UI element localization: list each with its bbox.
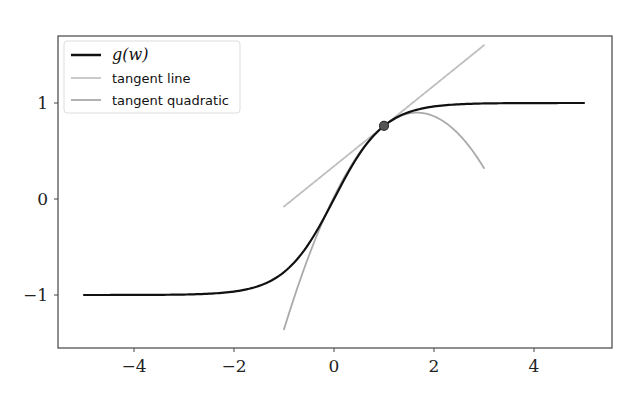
y-tick-label: 0	[37, 189, 48, 209]
x-tick-label: 4	[529, 356, 540, 376]
x-tick-label: 2	[429, 356, 440, 376]
y-axis-ticks: −101	[23, 93, 58, 305]
x-tick-label: 0	[329, 356, 340, 376]
y-tick-label: 1	[37, 93, 48, 113]
x-axis-ticks: −4−2024	[121, 348, 539, 376]
x-tick-label: −4	[121, 356, 146, 376]
chart: −4−2024 −101 g(w) tangent line tangent q…	[0, 0, 642, 395]
legend-label-g: g(w)	[112, 45, 148, 64]
x-tick-label: −2	[221, 356, 246, 376]
legend-label-tangent-quadratic: tangent quadratic	[112, 93, 229, 108]
legend: g(w) tangent line tangent quadratic	[64, 41, 240, 113]
y-tick-label: −1	[23, 285, 48, 305]
legend-label-tangent-line: tangent line	[112, 71, 190, 86]
tangent-point-marker	[380, 121, 389, 130]
